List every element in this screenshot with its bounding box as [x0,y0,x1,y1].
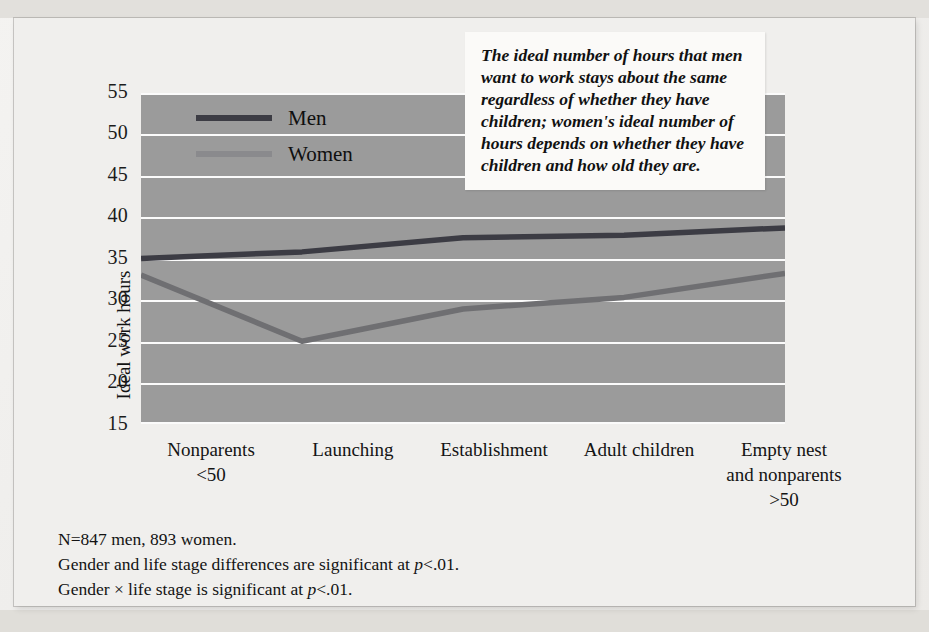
y-tick-30: 30 [82,287,128,310]
y-tick-25: 25 [82,329,128,352]
y-tick-20: 20 [82,370,128,393]
footnote-line-2: Gender and life stage differences are si… [58,552,459,577]
x-tick-launching: Launching [283,437,423,462]
footnote-3-text-a: Gender × life stage is significant at [58,579,307,599]
footnote-line-3: Gender × life stage is significant at p<… [58,577,459,602]
series-line-men [141,228,785,259]
legend: Men Women [196,100,353,172]
legend-item-men: Men [196,100,353,136]
x-tick-empty-nest: Empty nest and nonparents >50 [704,437,864,512]
footnote-line-1: N=847 men, 893 women. [58,527,459,552]
annotation-callout: The ideal number of hours that men want … [465,32,765,190]
footnote-2-text-b: <.01. [423,554,459,574]
y-tick-40: 40 [82,204,128,227]
footnote-3-p: p [307,579,316,599]
page-edge-bottom [0,610,929,632]
legend-swatch-men [196,115,272,121]
legend-label-men: Men [288,106,327,131]
x-tick-establishment: Establishment [414,437,574,462]
y-tick-35: 35 [82,246,128,269]
y-tick-55: 55 [82,80,128,103]
legend-label-women: Women [288,142,353,167]
series-line-women [141,273,785,341]
figure-frame: Ideal work hours 55 50 45 40 35 30 25 20… [14,18,915,606]
y-tick-50: 50 [82,121,128,144]
footnote-3-text-b: <.01. [316,579,352,599]
page-background: Ideal work hours 55 50 45 40 35 30 25 20… [0,0,929,632]
y-tick-45: 45 [82,163,128,186]
footnotes: N=847 men, 893 women. Gender and life st… [58,527,459,602]
x-tick-nonparents: Nonparents <50 [141,437,281,487]
y-tick-15: 15 [82,412,128,435]
legend-item-women: Women [196,136,353,172]
page-edge-top [0,0,929,18]
legend-swatch-women [196,151,272,157]
footnote-2-text-a: Gender and life stage differences are si… [58,554,414,574]
x-tick-adult-children: Adult children [564,437,714,462]
footnote-2-p: p [414,554,423,574]
